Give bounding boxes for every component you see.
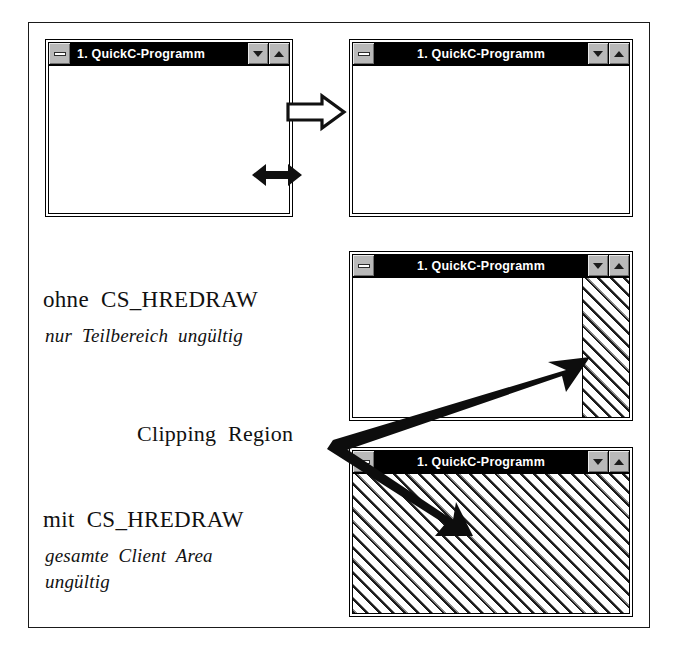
restore-down-button[interactable]	[587, 43, 608, 64]
label-with-hredraw-sub-1: gesamte Client Area	[45, 545, 213, 567]
window-after-resize[interactable]: 1. QuickC-Programm	[349, 39, 633, 217]
chevron-up-icon	[614, 459, 624, 465]
chevron-down-icon	[593, 459, 603, 465]
restore-down-button[interactable]	[247, 43, 268, 64]
maximize-up-button[interactable]	[608, 43, 629, 64]
label-without-hredraw: ohne CS_HREDRAW	[43, 287, 258, 313]
window-inner-frame: 1. QuickC-Programm	[48, 42, 290, 214]
titlebar[interactable]: 1. QuickC-Programm	[353, 43, 629, 65]
maximize-up-button[interactable]	[608, 255, 629, 276]
invalid-region-hatch	[582, 278, 629, 417]
window-without-hredraw[interactable]: 1. QuickC-Programm	[349, 251, 633, 421]
window-inner-frame: 1. QuickC-Programm	[352, 42, 630, 214]
label-with-hredraw-sub-2: ungültig	[45, 571, 110, 593]
minimize-glyph	[54, 52, 66, 56]
label-with-hredraw: mit CS_HREDRAW	[43, 507, 244, 533]
chevron-down-icon	[593, 263, 603, 269]
titlebar[interactable]: 1. QuickC-Programm	[353, 451, 629, 473]
chevron-down-icon	[253, 51, 263, 57]
minimize-glyph	[358, 460, 370, 464]
client-area	[49, 65, 289, 213]
label-clipping-region: Clipping Region	[137, 421, 293, 447]
label-without-hredraw-sub: nur Teilbereich ungültig	[45, 325, 243, 347]
chevron-down-icon	[593, 51, 603, 57]
chevron-up-icon	[614, 51, 624, 57]
maximize-up-button[interactable]	[608, 451, 629, 472]
chevron-up-icon	[274, 51, 284, 57]
client-area	[353, 65, 629, 213]
chevron-up-icon	[614, 263, 624, 269]
window-inner-frame: 1. QuickC-Programm	[352, 254, 630, 418]
minimize-box-icon[interactable]	[353, 43, 375, 64]
figure-frame: 1. QuickC-Programm 1. QuickC-Programm	[28, 22, 650, 628]
window-title: 1. QuickC-Programm	[375, 43, 587, 64]
client-area	[353, 277, 629, 417]
titlebar[interactable]: 1. QuickC-Programm	[353, 255, 629, 277]
window-title: 1. QuickC-Programm	[375, 255, 587, 276]
maximize-up-button[interactable]	[268, 43, 289, 64]
invalid-region-hatch	[353, 474, 629, 613]
client-area	[353, 473, 629, 613]
minimize-box-icon[interactable]	[49, 43, 71, 64]
minimize-glyph	[358, 52, 370, 56]
window-title: 1. QuickC-Programm	[375, 451, 587, 472]
minimize-box-icon[interactable]	[353, 451, 375, 472]
window-with-hredraw[interactable]: 1. QuickC-Programm	[349, 447, 633, 617]
restore-down-button[interactable]	[587, 255, 608, 276]
titlebar[interactable]: 1. QuickC-Programm	[49, 43, 289, 65]
window-title: 1. QuickC-Programm	[71, 43, 247, 64]
window-inner-frame: 1. QuickC-Programm	[352, 450, 630, 614]
minimize-box-icon[interactable]	[353, 255, 375, 276]
minimize-glyph	[358, 264, 370, 268]
window-before-resize[interactable]: 1. QuickC-Programm	[45, 39, 293, 217]
restore-down-button[interactable]	[587, 451, 608, 472]
